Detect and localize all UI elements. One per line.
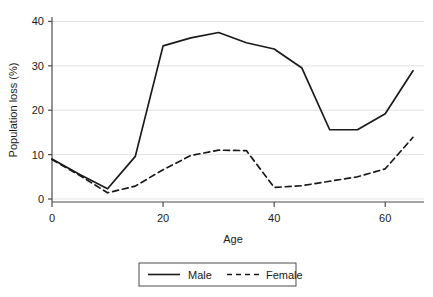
y-axis-tick-labels: 010203040 <box>32 15 44 205</box>
y-tick-label: 10 <box>32 149 44 161</box>
gridlines <box>52 21 424 199</box>
data-series-group <box>52 33 413 193</box>
x-tick-label: 20 <box>157 212 169 224</box>
legend-label-male: Male <box>188 269 212 281</box>
series-line-female <box>52 137 413 192</box>
line-chart: 010203040 0204060 Age Population loss (%… <box>0 0 433 297</box>
chart-figure: 010203040 0204060 Age Population loss (%… <box>0 0 433 297</box>
x-tick-label: 40 <box>268 212 280 224</box>
x-axis-title: Age <box>223 233 243 245</box>
x-tick-label: 60 <box>379 212 391 224</box>
y-tick-label: 40 <box>32 15 44 27</box>
y-tick-label: 30 <box>32 60 44 72</box>
y-axis-title: Population loss (%) <box>7 63 19 158</box>
y-tick-label: 0 <box>38 193 44 205</box>
legend-label-female: Female <box>266 269 303 281</box>
x-axis-ticks <box>52 202 385 207</box>
x-tick-label: 0 <box>49 212 55 224</box>
chart-legend: Male Female <box>139 263 303 286</box>
x-axis-tick-labels: 0204060 <box>49 212 391 224</box>
y-tick-label: 20 <box>32 104 44 116</box>
